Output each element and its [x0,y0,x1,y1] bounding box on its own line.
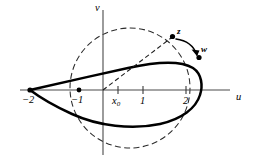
cusp-point [27,87,32,92]
tick-label: 1 [140,96,145,107]
cusp-point-label: −2 [22,95,34,106]
joukowski-figure: v u x012 −2−1 zw [0,0,257,163]
center-offset-point [77,88,82,93]
point-z-dot [170,34,175,39]
tick-label: 2 [183,96,188,107]
v-axis-label: v [95,3,100,14]
u-axis-label: u [236,92,241,103]
point-w-dot [196,55,201,60]
point-w-label: w [201,45,207,54]
tick-label: x0 [112,96,120,107]
figure-canvas [0,0,257,163]
tick-label-subscript: 0 [117,100,121,108]
z-to-w-arrow [176,39,197,55]
plane-point-dots [170,34,202,60]
point-z-label: z [177,27,181,36]
center-offset-point-label: −1 [71,95,83,106]
generating-circle [70,28,190,148]
